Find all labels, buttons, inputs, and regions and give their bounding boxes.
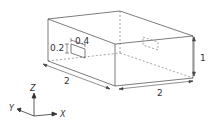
label-x-axis: X [59, 110, 66, 119]
outlet-opening-hidden [143, 37, 158, 50]
box-hidden-back-bottom-left [48, 53, 120, 61]
label-opening-width: 0.4 [75, 36, 90, 46]
label-width-y: 2 [157, 88, 163, 98]
y-axis-arrow [19, 110, 34, 116]
label-length-x: 2 [64, 76, 70, 86]
box-top-face [48, 11, 193, 44]
label-height-z: 1 [200, 53, 206, 63]
dimension-length-x [43, 64, 110, 89]
inlet-opening [71, 44, 85, 58]
dimension-opening-height [65, 44, 69, 53]
label-y-axis: Y [9, 104, 15, 113]
label-z-axis: Z [29, 84, 36, 93]
coordinate-axes [17, 93, 57, 116]
box-diagram: 0.4 0.2 2 2 1 Z X Y [0, 0, 210, 133]
box-hidden-back-bottom-right [120, 53, 193, 78]
box-bottom-left-edge [48, 61, 115, 86]
label-opening-height: 0.2 [50, 43, 64, 53]
